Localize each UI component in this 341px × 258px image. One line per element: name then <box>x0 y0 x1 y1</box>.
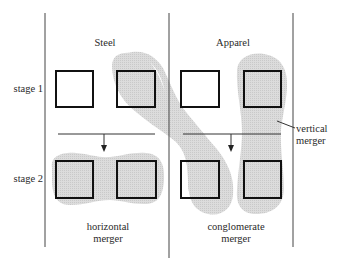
conglomerate-merger-label: conglomerate merger <box>196 221 276 245</box>
vertical-merger-label-line2: merger <box>296 135 341 147</box>
steel-firm-a-stage1 <box>56 71 93 107</box>
merger-diagram <box>0 0 341 258</box>
apparel-firm-a-stage1 <box>181 71 219 107</box>
row-label-stage-1: stage 1 <box>0 83 43 95</box>
row-label-stage-2: stage 2 <box>0 173 43 185</box>
vertical-merger-label: vertical merger <box>296 123 341 147</box>
conglomerate-merger-label-line2: merger <box>196 233 276 245</box>
horizontal-merger-label: horizontal merger <box>70 221 146 245</box>
vertical-merger-label-line1: vertical <box>296 123 341 135</box>
horizontal-merger-label-line2: merger <box>70 233 146 245</box>
column-title-apparel: Apparel <box>206 37 260 49</box>
horizontal-merger-label-line1: horizontal <box>70 221 146 233</box>
conglomerate-merger-label-line1: conglomerate <box>196 221 276 233</box>
steel-arrow-icon <box>101 145 107 152</box>
apparel-arrow-icon <box>228 145 234 152</box>
column-title-steel: Steel <box>85 37 125 49</box>
